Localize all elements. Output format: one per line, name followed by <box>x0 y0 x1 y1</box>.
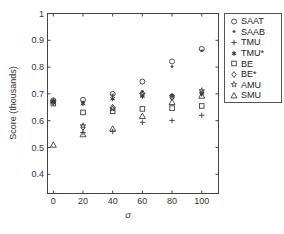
y-tick-label: 0.4 <box>31 169 44 179</box>
y-tick-label: 0.9 <box>31 35 44 45</box>
y-axis-label: Score (thousands) <box>8 66 18 140</box>
figure: 0204060801000.40.50.60.70.80.91 Score (t… <box>0 0 284 234</box>
legend-item-amu: AMU <box>227 80 281 91</box>
legend-marker-diamond-icon <box>227 69 241 80</box>
y-tick-label: 0.7 <box>31 89 44 99</box>
point-smu-sigma-80 <box>169 99 175 104</box>
legend-label: TMU <box>241 37 261 47</box>
y-tick-label: 0.8 <box>31 62 44 72</box>
x-tick-label: 20 <box>78 196 88 206</box>
legend-label: BE <box>241 59 253 69</box>
point-be-sigma-100 <box>199 104 204 109</box>
legend-marker-plus-icon <box>227 37 241 48</box>
point-tmu-star-sigma-40 <box>111 96 115 101</box>
legend-marker-pentagram-icon <box>227 79 241 90</box>
point-tmu-sigma-60 <box>140 120 145 125</box>
point-be-sigma-60 <box>140 107 145 112</box>
series-amu <box>50 88 204 129</box>
point-smu-sigma-0 <box>50 142 56 147</box>
legend-marker-square-icon <box>227 58 241 69</box>
y-tick-label: 0.5 <box>31 143 44 153</box>
series-tmu-star <box>51 91 204 106</box>
point-be-sigma-20 <box>81 110 86 115</box>
legend-label: SAAB <box>241 27 265 37</box>
legend-item-tmu-star: TMU* <box>227 48 281 59</box>
point-smu-sigma-60 <box>139 113 145 118</box>
axes-box <box>48 14 219 194</box>
series-saat <box>51 46 204 102</box>
legend-label: SMU <box>241 90 261 100</box>
point-tmu-sigma-80 <box>169 118 174 123</box>
legend-item-saab: SAAB <box>227 27 281 38</box>
legend: SAATSAABTMUTMU*BEBE*AMUSMU <box>224 13 282 103</box>
x-tick-label: 80 <box>167 196 177 206</box>
x-tick-label: 0 <box>51 196 56 206</box>
legend-item-be: BE <box>227 58 281 69</box>
point-saat-sigma-60 <box>140 79 145 84</box>
legend-item-tmu: TMU <box>227 37 281 48</box>
x-tick-label: 40 <box>108 196 118 206</box>
legend-marker-dot-star-icon <box>227 26 241 37</box>
x-axis-label: σ <box>125 209 131 220</box>
legend-marker-filled-star-icon <box>227 48 241 59</box>
series-be <box>51 101 204 114</box>
series-smu <box>50 93 204 147</box>
legend-item-be-star: BE* <box>227 69 281 80</box>
point-saat-sigma-80 <box>170 59 175 64</box>
point-be-sigma-80 <box>170 106 175 111</box>
series-tmu <box>51 100 205 135</box>
series-be-star <box>51 90 204 131</box>
x-tick-label: 100 <box>194 196 209 206</box>
series-saab <box>52 49 204 103</box>
x-tick-label: 60 <box>137 196 147 206</box>
point-saab-sigma-80 <box>170 65 173 68</box>
y-tick-label: 0.6 <box>31 116 44 126</box>
legend-marker-circle-icon <box>227 16 241 27</box>
legend-label: TMU* <box>241 48 264 58</box>
legend-item-saat: SAAT <box>227 16 281 27</box>
legend-label: SAAT <box>241 16 264 26</box>
legend-label: AMU <box>241 80 261 90</box>
legend-item-smu: SMU <box>227 90 281 101</box>
y-tick-label: 1 <box>39 9 44 19</box>
legend-marker-triangle-icon <box>227 90 241 101</box>
legend-label: BE* <box>241 69 257 79</box>
point-tmu-sigma-100 <box>199 113 204 118</box>
